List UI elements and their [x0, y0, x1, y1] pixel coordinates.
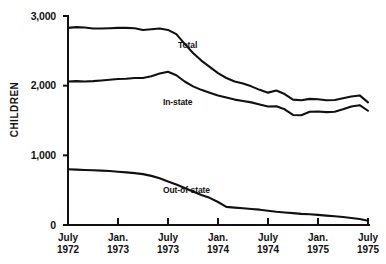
axis-lines — [68, 16, 370, 225]
series-lines — [68, 27, 368, 221]
plot-area — [0, 0, 386, 264]
chart-container: CHILDREN 3,000 2,000 1,000 0 July 1972 J… — [0, 0, 386, 264]
series-line-total — [68, 27, 368, 102]
series-line-in-state — [68, 72, 368, 116]
series-line-out-of-state — [68, 169, 368, 221]
